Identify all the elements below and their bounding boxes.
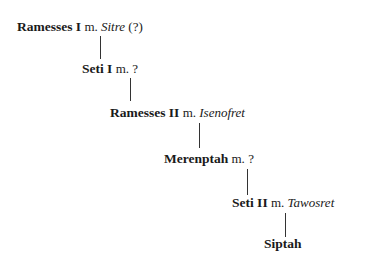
married-marker: m. [271, 195, 284, 210]
descent-line [199, 123, 200, 148]
spouse-name: Sitre [101, 19, 125, 34]
spouse-name: Isenofret [199, 105, 245, 120]
king-name: Seti I [82, 61, 112, 76]
king-name: Merenptah [164, 151, 228, 166]
descent-line [247, 169, 248, 195]
descent-line [100, 36, 101, 59]
unknown-spouse: ? [248, 151, 254, 166]
node-merenptah: Merenptah m. ? [164, 151, 254, 167]
married-marker: m. [232, 151, 245, 166]
descent-line [130, 78, 131, 101]
king-name: Ramesses I [17, 19, 81, 34]
node-siptah: Siptah [264, 236, 302, 252]
spouse-name: Tawosret [288, 195, 335, 210]
node-seti-i: Seti I m. ? [82, 61, 138, 77]
uncertain-note: (?) [128, 19, 142, 34]
node-ramesses-ii: Ramesses II m. Isenofret [110, 105, 245, 121]
king-name: Siptah [264, 236, 302, 251]
married-marker: m. [116, 61, 129, 76]
king-name: Ramesses II [110, 105, 179, 120]
married-marker: m. [183, 105, 196, 120]
descent-line [285, 213, 286, 237]
unknown-spouse: ? [132, 61, 138, 76]
node-seti-ii: Seti II m. Tawosret [232, 195, 334, 211]
married-marker: m. [84, 19, 97, 34]
king-name: Seti II [232, 195, 268, 210]
node-ramesses-i: Ramesses I m. Sitre (?) [17, 19, 143, 35]
